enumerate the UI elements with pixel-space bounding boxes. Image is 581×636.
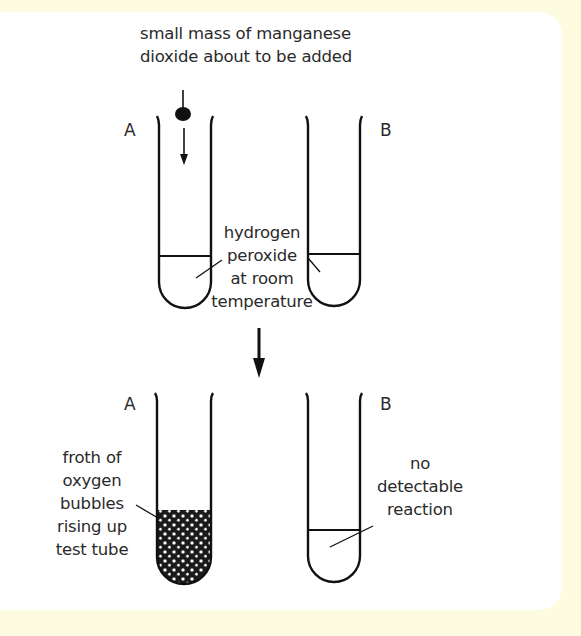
tube-b-before-letter: B — [380, 120, 392, 140]
no-reaction-line3: reaction — [368, 498, 472, 521]
froth-label-line1: froth of — [42, 446, 142, 469]
mno2-label: small mass of manganese dioxide about to… — [140, 22, 352, 68]
process-arrow-icon — [253, 358, 265, 378]
liquid-label-line4: temperature — [208, 290, 316, 313]
liquid-label-line1: hydrogen — [208, 221, 316, 244]
froth-label-line3: bubbles — [42, 492, 142, 515]
tube-a-before-letter: A — [124, 120, 136, 140]
hydrogen-peroxide-label: hydrogen peroxide at room temperature — [208, 221, 316, 313]
mno2-label-line1: small mass of manganese — [140, 22, 352, 45]
liquid-label-line3: at room — [208, 267, 316, 290]
froth-label-line4: rising up — [42, 515, 142, 538]
liquid-label-line2: peroxide — [208, 244, 316, 267]
no-reaction-line1: no — [368, 452, 472, 475]
froth-label-line5: test tube — [42, 538, 142, 561]
tube-a-before — [157, 116, 213, 308]
falling-arrow-icon — [180, 154, 188, 165]
tube-b-after — [306, 393, 362, 582]
tube-a-after-letter: A — [124, 394, 136, 414]
no-reaction-line2: detectable — [368, 475, 472, 498]
no-reaction-label: no detectable reaction — [368, 452, 472, 521]
manganese-dioxide-lump — [175, 107, 191, 121]
froth-label-line2: oxygen — [42, 469, 142, 492]
mno2-label-line2: dioxide about to be added — [140, 45, 352, 68]
froth-label: froth of oxygen bubbles rising up test t… — [42, 446, 142, 561]
tube-a-after — [155, 393, 213, 584]
tube-b-after-letter: B — [380, 394, 392, 414]
